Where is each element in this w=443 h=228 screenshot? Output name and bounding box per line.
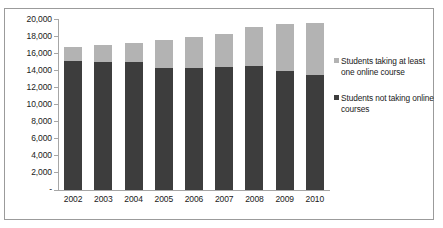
bar-segment-not-online <box>94 62 112 190</box>
y-tick-label: 6,000 <box>4 134 52 143</box>
bar-column <box>245 27 263 190</box>
legend-label: Students taking at least one online cour… <box>341 56 438 78</box>
x-tick-label: 2010 <box>295 194 335 204</box>
y-tick-label: 2,000 <box>4 168 52 177</box>
y-tick-label: 14,000 <box>4 66 52 75</box>
bar-segment-online <box>306 23 324 75</box>
bar-segment-not-online <box>276 71 294 190</box>
y-tick-label: - <box>4 185 52 194</box>
bar-column <box>276 24 294 190</box>
y-tick-label: 20,000 <box>4 15 52 24</box>
y-tick-label: 8,000 <box>4 117 52 126</box>
bar-segment-online <box>276 24 294 71</box>
legend-swatch-icon <box>334 58 339 63</box>
bar-segment-online <box>185 37 203 68</box>
y-tick-label: 10,000 <box>4 100 52 109</box>
bar-column <box>94 45 112 190</box>
bar-column <box>125 43 143 190</box>
legend-item-online: Students taking at least one online cour… <box>334 56 438 78</box>
y-tick-label: 12,000 <box>4 83 52 92</box>
bar-column <box>306 23 324 190</box>
chart-figure: 20,000 18,000 16,000 14,000 12,000 10,00… <box>0 0 443 228</box>
bar-segment-not-online <box>215 67 233 190</box>
y-tick-label: 16,000 <box>4 49 52 58</box>
legend-label: Students not taking online courses <box>341 93 438 115</box>
bar-segment-online <box>94 45 112 62</box>
bar-segment-not-online <box>64 61 82 190</box>
bar-segment-online <box>155 40 173 68</box>
bar-column <box>215 34 233 190</box>
y-tick-label: 18,000 <box>4 32 52 41</box>
y-tick-label: 4,000 <box>4 151 52 160</box>
x-axis-line <box>58 190 330 191</box>
bar-column <box>64 47 82 190</box>
bar-segment-online <box>215 34 233 67</box>
plot-area <box>58 19 330 190</box>
bar-segment-not-online <box>185 68 203 190</box>
legend-swatch-icon <box>334 95 339 100</box>
bar-segment-online <box>245 27 263 66</box>
bar-column <box>185 37 203 190</box>
bar-segment-not-online <box>306 75 324 190</box>
y-axis-labels: 20,000 18,000 16,000 14,000 12,000 10,00… <box>0 0 52 228</box>
bar-segment-not-online <box>245 66 263 190</box>
chart-legend: Students taking at least one online cour… <box>334 56 438 130</box>
legend-item-not-online: Students not taking online courses <box>334 93 438 115</box>
bar-segment-online <box>125 43 143 63</box>
bar-segment-online <box>64 47 82 61</box>
bar-column <box>155 40 173 190</box>
bar-segment-not-online <box>125 62 143 190</box>
bar-segment-not-online <box>155 68 173 190</box>
